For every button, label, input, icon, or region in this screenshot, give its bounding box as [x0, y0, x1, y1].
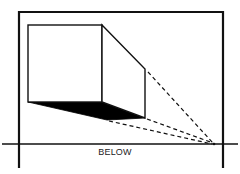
box-side-face — [102, 25, 145, 118]
box-front-face — [28, 25, 102, 102]
vanishing-point — [213, 143, 216, 146]
vanishing-line-back-bottom — [147, 119, 213, 143]
below-label: BELOW — [98, 147, 132, 157]
